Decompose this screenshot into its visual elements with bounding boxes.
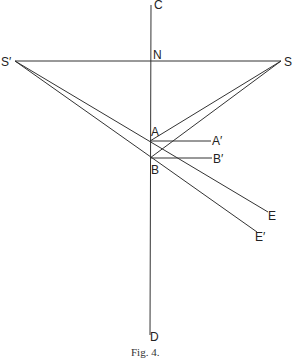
label-B-prime: B′ bbox=[213, 152, 224, 166]
label-E-prime: E′ bbox=[255, 230, 266, 244]
label-E: E bbox=[268, 209, 276, 223]
line-S-A bbox=[150, 61, 281, 141]
geometry-figure: C N S′ S A A′ B B′ E E′ D Fig. 4. bbox=[0, 0, 295, 360]
label-N: N bbox=[153, 48, 162, 62]
label-A: A bbox=[151, 125, 159, 139]
line-Sprime-E bbox=[15, 61, 268, 212]
label-A-prime: A′ bbox=[212, 134, 223, 148]
label-D: D bbox=[150, 330, 159, 344]
figure-caption: Fig. 4. bbox=[131, 346, 160, 358]
label-C: C bbox=[154, 0, 163, 12]
label-B: B bbox=[151, 163, 159, 177]
label-S: S bbox=[284, 55, 292, 69]
label-S-prime: S′ bbox=[1, 55, 12, 69]
